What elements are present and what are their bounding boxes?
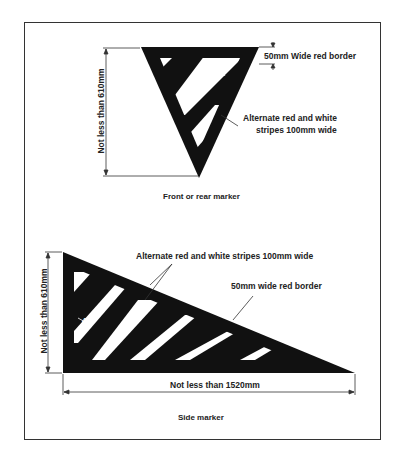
front-height-label: Not less than 610mm	[96, 68, 106, 153]
side-border-pointer	[233, 296, 253, 320]
side-border-label: 50mm wide red border	[231, 281, 322, 291]
front-marker-triangle	[125, 47, 259, 178]
side-stripes-label: Alternate red and white stripes 100mm wi…	[136, 251, 313, 261]
front-stripes-label-line1: Alternate red and white	[243, 113, 337, 123]
side-width-label: Not less than 1520mm	[170, 380, 260, 390]
side-height-label: Not less than 610mm	[39, 268, 49, 353]
front-angle-label: 45°	[201, 67, 213, 76]
side-marker-triangle	[63, 252, 355, 373]
side-angle-label: 45°	[82, 316, 94, 325]
side-marker-caption: Side marker	[178, 413, 224, 422]
front-stripes-label-line2: stripes 100mm wide	[256, 125, 337, 135]
front-marker-caption: Front or rear marker	[163, 192, 240, 201]
front-border-label: 50mm Wide red border	[264, 51, 356, 61]
